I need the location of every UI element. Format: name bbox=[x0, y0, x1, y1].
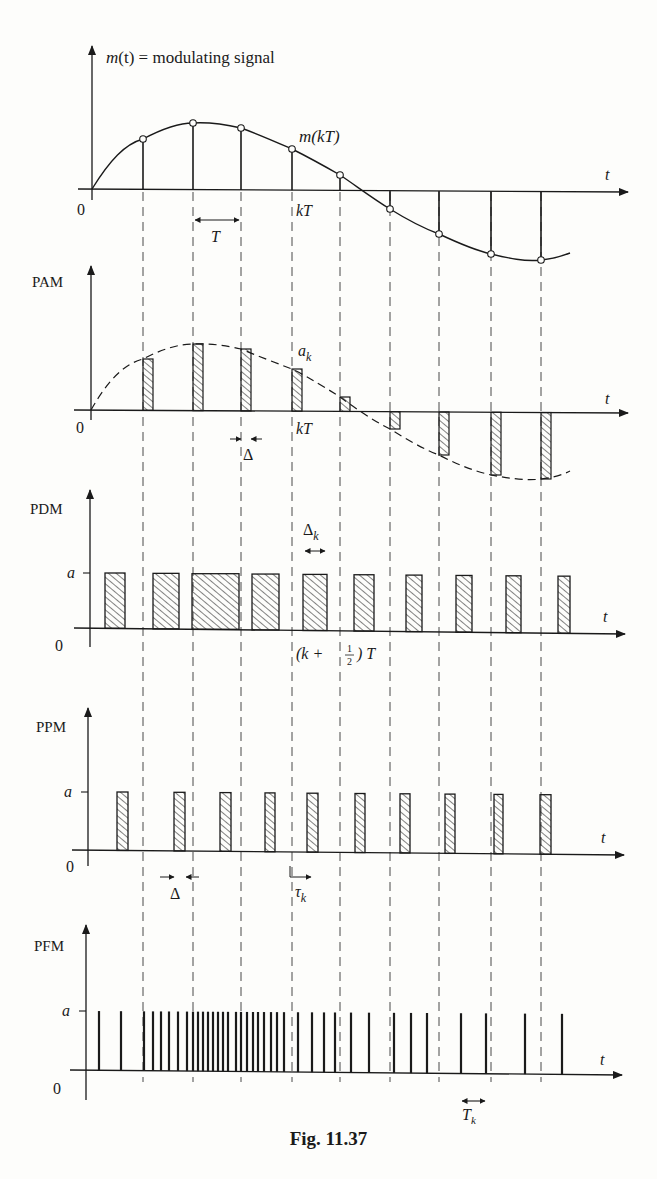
sample-point bbox=[238, 125, 245, 132]
pfm-time-axis-label: t bbox=[600, 1051, 605, 1068]
pdm-pulse bbox=[192, 574, 239, 630]
pam-pulse bbox=[292, 369, 302, 411]
signal-panel bbox=[78, 46, 628, 263]
sample-point bbox=[436, 231, 443, 238]
pfm-period-label: Tk bbox=[462, 1106, 477, 1126]
ppm-origin-label: 0 bbox=[66, 858, 74, 875]
sample-point bbox=[140, 136, 147, 143]
pfm-axis-label: PFM bbox=[34, 938, 64, 954]
pdm-axis-label: PDM bbox=[30, 501, 63, 517]
pdm-center-time-label: (k + bbox=[296, 645, 323, 663]
pam-pulse bbox=[439, 412, 449, 455]
pdm-pulse bbox=[105, 573, 125, 628]
pdm-center-time-close: ) T bbox=[356, 645, 376, 663]
pam-time-axis-label: t bbox=[605, 390, 610, 407]
signal-time-axis-label: t bbox=[605, 166, 610, 183]
pulse-modulation-figure: m(t) = modulating signal 0 t m(kT) kT T … bbox=[0, 0, 657, 1179]
ppm-level-label: a bbox=[64, 783, 72, 800]
pam-origin-label: 0 bbox=[76, 419, 84, 436]
pdm-pulse bbox=[506, 576, 521, 633]
pdm-time-axis-label: t bbox=[603, 608, 608, 625]
ppm-pulse bbox=[220, 793, 231, 852]
pfm-origin-label: 0 bbox=[53, 1080, 61, 1097]
ppm-shift-arrow bbox=[290, 866, 311, 877]
pdm-pulse bbox=[303, 574, 327, 630]
ppm-width-label: Δ bbox=[170, 885, 180, 902]
signal-origin-label: 0 bbox=[77, 201, 85, 218]
ppm-pulse bbox=[117, 792, 128, 850]
pam-pulse bbox=[390, 412, 400, 429]
pfm-level-label: a bbox=[62, 1002, 70, 1019]
signal-x-axis bbox=[78, 189, 628, 192]
ppm-pulse bbox=[355, 794, 365, 853]
sample-point bbox=[538, 257, 545, 264]
ppm-shift-label: τk bbox=[295, 883, 307, 905]
pdm-half-numerator: 1 bbox=[347, 643, 352, 654]
pam-width-label: Δ bbox=[243, 446, 253, 463]
period-label: T bbox=[211, 228, 221, 245]
pdm-panel bbox=[74, 490, 625, 647]
ppm-pulse bbox=[494, 794, 503, 853]
pdm-origin-label: 0 bbox=[55, 637, 63, 654]
pam-pulse bbox=[340, 397, 350, 411]
ppm-time-axis-label: t bbox=[601, 829, 606, 846]
sample-point bbox=[289, 146, 296, 153]
pam-pulse bbox=[241, 349, 251, 411]
sample-value-label: m(kT) bbox=[299, 127, 340, 146]
pam-panel bbox=[74, 266, 628, 480]
pdm-width-label: Δk bbox=[303, 521, 319, 543]
pdm-pulse bbox=[153, 573, 179, 629]
pam-axis-label: PAM bbox=[32, 274, 63, 290]
signal-axis-label: m(t) = modulating signal bbox=[106, 48, 275, 67]
ppm-pulse bbox=[307, 793, 318, 852]
pam-pulse bbox=[541, 413, 551, 479]
ppm-pulse bbox=[400, 794, 410, 853]
sample-time-label: kT bbox=[296, 202, 313, 219]
pdm-half-denominator: 2 bbox=[347, 656, 352, 667]
sample-point bbox=[190, 120, 197, 127]
ppm-panel bbox=[72, 708, 624, 866]
pdm-pulse bbox=[354, 575, 374, 631]
ppm-pulse bbox=[174, 792, 185, 851]
pdm-level-label: a bbox=[67, 564, 75, 581]
figure-caption: Fig. 11.37 bbox=[0, 1128, 657, 1150]
sample-point bbox=[488, 251, 495, 258]
pfm-panel bbox=[70, 925, 622, 1100]
dashed-sample-guides bbox=[143, 192, 541, 1082]
sample-point bbox=[387, 206, 394, 213]
ppm-pulse bbox=[445, 794, 455, 853]
sample-point bbox=[337, 172, 344, 179]
pdm-pulse bbox=[558, 576, 570, 633]
ppm-axis-label: PPM bbox=[36, 719, 66, 735]
pdm-pulse bbox=[252, 574, 279, 630]
ppm-pulse bbox=[265, 793, 275, 852]
pam-pulse bbox=[491, 412, 501, 475]
ppm-pulse bbox=[540, 795, 551, 855]
pam-time-label: kT bbox=[296, 420, 313, 437]
pam-pulse bbox=[143, 359, 153, 410]
pdm-pulse bbox=[456, 575, 472, 632]
pam-pulse bbox=[193, 344, 203, 411]
pam-amplitude-label: ak bbox=[298, 342, 312, 364]
pdm-pulse bbox=[406, 575, 422, 632]
